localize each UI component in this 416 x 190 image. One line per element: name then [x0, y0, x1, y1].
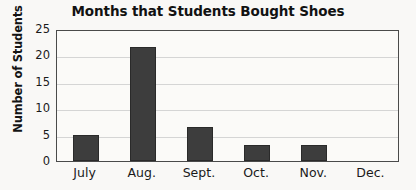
bar-slot: [171, 31, 228, 161]
plot-area: [56, 30, 399, 162]
x-tick-label: Sept.: [170, 165, 227, 180]
y-tick-label: 15: [14, 75, 50, 89]
bar: [130, 47, 156, 161]
y-tick-label: 5: [14, 128, 50, 142]
y-tick-label: 0: [14, 154, 50, 168]
x-tick-label: Aug.: [113, 165, 170, 180]
y-tick-label: 10: [14, 101, 50, 115]
y-tick-label: 25: [14, 22, 50, 36]
x-axis-tick-labels: JulyAug.Sept.Oct.Nov.Dec.: [56, 165, 399, 187]
x-tick-label: Dec.: [342, 165, 399, 180]
bar-slot: [57, 31, 114, 161]
bar-slot: [286, 31, 343, 161]
bar-slot: [343, 31, 399, 161]
bar: [73, 135, 99, 161]
bar: [244, 145, 270, 161]
x-tick-label: Nov.: [285, 165, 342, 180]
bar: [301, 145, 327, 161]
y-tick-label: 20: [14, 48, 50, 62]
bar-slot: [229, 31, 286, 161]
bar-slot: [114, 31, 171, 161]
x-tick-label: July: [56, 165, 113, 180]
chart-title: Months that Students Bought Shoes: [0, 3, 416, 19]
bar-chart-figure: Months that Students Bought Shoes Number…: [0, 0, 416, 190]
x-tick-label: Oct.: [228, 165, 285, 180]
bar: [187, 127, 213, 161]
